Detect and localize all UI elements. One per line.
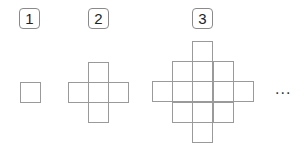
pattern-1-label: 1 [19,8,40,29]
grid-cell [172,81,193,102]
grid-cell [233,81,254,102]
grid-cell [172,102,193,123]
grid-cell [192,61,213,82]
grid-cell [108,82,129,103]
grid-cell [172,61,193,82]
pattern-3-label: 3 [192,8,213,29]
grid-cell [213,81,234,102]
grid-cell [213,61,234,82]
continuation-ellipsis: ... [275,80,291,98]
grid-cell [88,62,109,83]
grid-cell [68,82,89,103]
grid-cell [88,82,109,103]
pattern-2-label: 2 [88,8,109,29]
grid-cell [20,82,41,103]
grid-cell [88,102,109,123]
grid-cell [192,41,213,62]
grid-cell [192,81,213,102]
grid-cell [213,102,234,123]
grid-cell [192,122,213,143]
grid-cell [192,102,213,123]
grid-cell [152,81,173,102]
